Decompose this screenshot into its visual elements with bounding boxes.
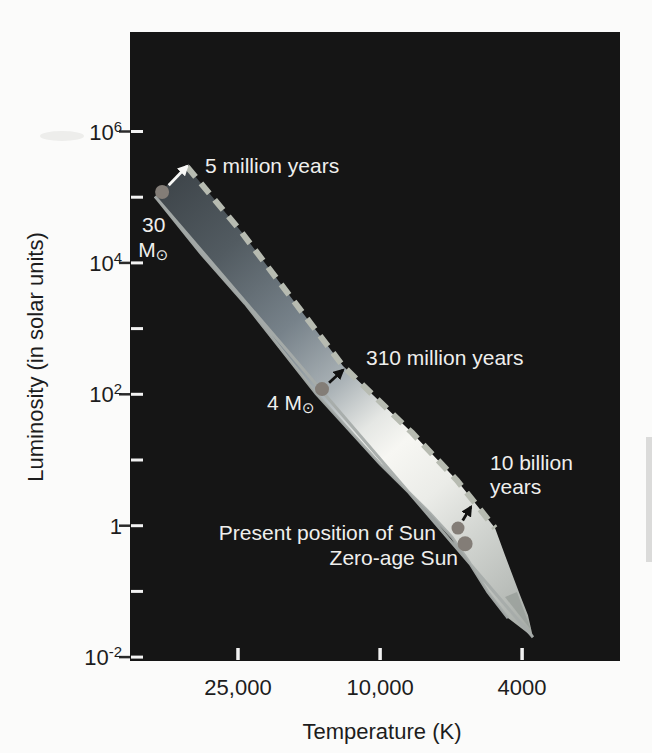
- sun-present-dot: [452, 522, 465, 535]
- y-tick-label: 106: [89, 118, 122, 145]
- y-tick-label: 1: [110, 514, 122, 539]
- y-tick-label: 102: [89, 380, 122, 407]
- annotation-present-position-of-sun: Present position of Sun: [219, 521, 436, 544]
- annotation-years: years: [490, 475, 541, 498]
- annotation-5-million-years: 5 million years: [205, 154, 339, 177]
- scan-artifact-strip: [646, 437, 652, 562]
- x-tick-label: 25,000: [204, 675, 271, 700]
- annotation-10-billion: 10 billion: [490, 451, 573, 474]
- sun-zero-age-dot: [458, 536, 473, 551]
- hr-diagram-figure: 106104102110-225,00010,00040005 million …: [0, 0, 652, 753]
- x-tick-label: 10,000: [346, 675, 413, 700]
- y-tick-label: 104: [89, 249, 122, 276]
- x-tick-label: 4000: [498, 675, 547, 700]
- star-30-msun-dot: [155, 185, 169, 199]
- y-tick-label: 10-2: [84, 643, 122, 670]
- annotation-zero-age-sun: Zero-age Sun: [330, 546, 458, 569]
- star-4-msun-dot: [315, 382, 329, 396]
- x-axis-title: Temperature (K): [303, 719, 462, 744]
- annotation-30: 30: [142, 213, 165, 236]
- annotation-310-million-years: 310 million years: [366, 346, 524, 369]
- hr-diagram: 106104102110-225,00010,00040005 million …: [0, 0, 652, 753]
- scan-smudge: [40, 131, 84, 141]
- y-axis-title: Luminosity (in solar units): [23, 232, 48, 481]
